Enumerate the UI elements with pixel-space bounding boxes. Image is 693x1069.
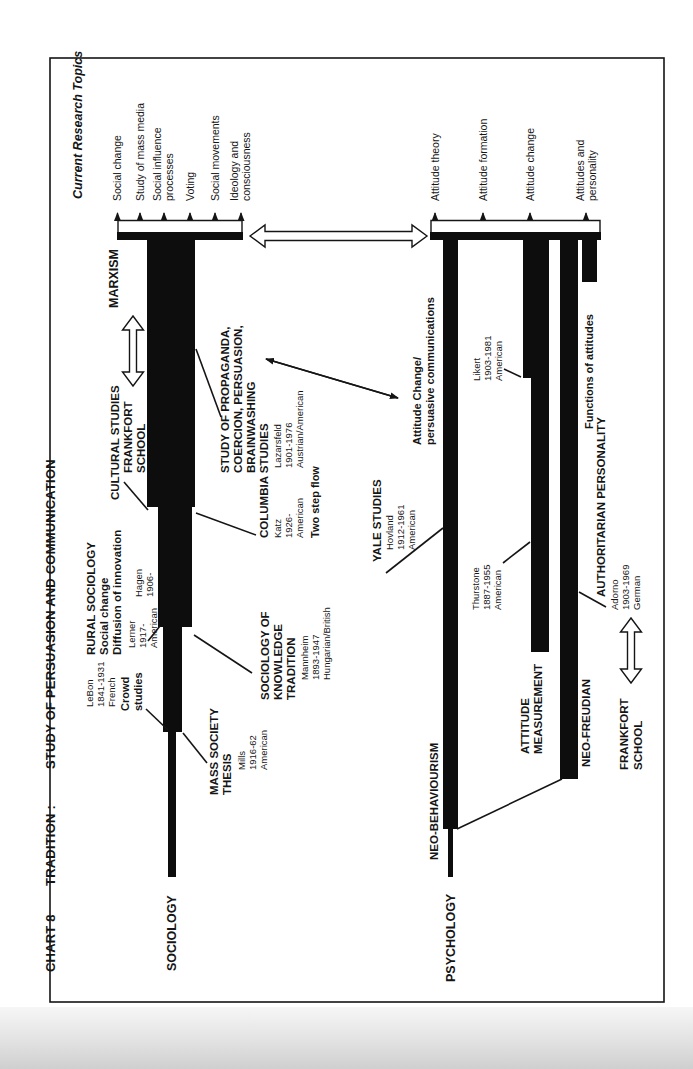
knowledge-tradition-label: SOCIOLOGY OFKNOWLEDGETRADITION: [259, 611, 298, 700]
attitude-measurement-label: ATTITUDEMEASUREMENT: [519, 664, 545, 754]
functions-of-attitudes-label: Functions of attitudes: [583, 314, 596, 429]
yale-studies-label: YALE STUDIES: [371, 479, 384, 562]
topic-social-change: Social change: [111, 135, 123, 201]
callout-line-likert: [504, 369, 521, 377]
branch-line-propaganda: [196, 349, 221, 417]
lebon-label: LeBon1841-1931French: [84, 662, 117, 707]
authoritarian-personality-label: AUTHORITARIAN PERSONALITY: [595, 417, 608, 597]
chart-subject: STUDY OF PERSUASION AND COMMUNICATION: [44, 459, 58, 769]
topic-attitude-change: Attitude change: [524, 128, 536, 201]
sociology-label: SOCIOLOGY: [165, 895, 179, 971]
scanned-book-page: CHART 8 TRADITION : STUDY OF PERSUASION …: [0, 0, 693, 1069]
branch-line-knowledge-tradition: [194, 635, 252, 673]
sociology-trunk-seg1: [168, 731, 176, 877]
neo-freudian-line: [560, 236, 578, 779]
hovland-label: Hovland1912-1961American: [384, 505, 417, 550]
current-research-topics-heading: Current Research Topics: [71, 51, 85, 199]
psychology-label: PSYCHOLOGY: [444, 894, 458, 982]
marxism-label: MARXISM: [107, 249, 121, 308]
sociology-psychology-exchange-arrow: [250, 225, 427, 247]
psychology-topics-bracket: [431, 221, 600, 233]
sociology-trunk-seg4: [147, 239, 195, 507]
chart-tradition: TRADITION :: [44, 805, 58, 886]
sociology-end-bar: [117, 232, 243, 240]
katz-label: Katz1926-American: [272, 498, 305, 538]
likert-label: Likert1903-1981American: [471, 336, 504, 381]
topic-attitude-formation: Attitude formation: [477, 119, 489, 201]
lerner-label: Lerner1917-American: [126, 608, 159, 648]
topic-attitudes-personality: Attitudes andpersonality: [574, 140, 598, 201]
cultural-studies-label: CULTURAL STUDIES: [109, 385, 122, 500]
topic-ideology: Ideology andconsciousness: [228, 132, 252, 201]
topic-voting: Voting: [184, 172, 196, 201]
neo-freudian-label: NEO-FREUDIAN: [580, 679, 593, 767]
frankfort-school-label: FRANKFORTSCHOOL: [122, 401, 148, 473]
hagen-label: Hagen1906-: [133, 569, 155, 597]
chart-canvas: CHART 8 TRADITION : STUDY OF PERSUASION …: [0, 0, 693, 1069]
topic-mass-media: Study of mass media: [134, 103, 146, 201]
branch-line-mass-society: [183, 733, 207, 763]
mills-label: Mills1916-62American: [236, 730, 269, 770]
attitude-measurement-line-late: [523, 236, 549, 378]
sociology-topics-bracket: [118, 221, 242, 233]
chart-number: CHART 8: [44, 914, 58, 972]
branch-line-cultural-studies: [124, 482, 148, 510]
mannheim-label: Mannheim1893-1947Hungarian/British: [299, 607, 332, 680]
branch-line-neo-freudian: [457, 779, 562, 829]
thurstone-label: Thurstone1887-1955American: [470, 565, 503, 610]
psychology-main-line: [443, 236, 458, 829]
psychology-end-bar: [430, 232, 601, 240]
sociology-trunk-seg2: [163, 626, 182, 732]
frankfort-school-psych-label: FRANKFORTSCHOOL: [617, 698, 645, 770]
rural-sociology-label: RURAL SOCIOLOGYSocial changeDiffusion of…: [85, 530, 124, 655]
functions-of-attitudes-line: [582, 236, 597, 282]
frankfort-adorno-double-arrow: [621, 618, 642, 683]
neo-behaviourism-label: NEO-BEHAVIOURISM: [428, 743, 441, 860]
attitude-measurement-line: [531, 378, 549, 652]
branch-line-columbia-studies: [196, 513, 256, 535]
frankfort-marxism-double-arrow: [123, 316, 144, 386]
columbia-studies-label: COLUMBIA STUDIES: [258, 423, 271, 538]
sociology-trunk-seg3: [158, 506, 192, 627]
topic-attitude-theory: Attitude theory: [429, 133, 441, 201]
topic-social-influence: Social influenceprocesses: [151, 127, 175, 201]
propaganda-label: STUDY OF PROPAGANDA,COERCION, PERSUASION…: [219, 325, 258, 473]
topic-social-movements: Social movements: [209, 115, 221, 201]
attitude-change-label: Attitude Change/persuasive communication…: [411, 297, 437, 445]
two-step-flow-label: Two step flow: [309, 466, 322, 538]
crowd-studies-label: Crowdstudies: [119, 672, 145, 711]
adorno-label: Adorno1903-1969German: [609, 565, 642, 610]
lazarsfeld-label: Lazarsfeld1901-1976Austrian/American: [272, 390, 305, 468]
callout-line-thurstone: [503, 542, 530, 563]
psychology-trunk-start: [448, 829, 453, 877]
mass-society-thesis-label: MASS SOCIETYTHESIS: [208, 708, 234, 795]
